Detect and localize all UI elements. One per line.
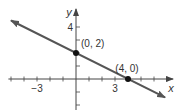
x-tick-label: 3	[112, 83, 118, 94]
data-point	[125, 76, 131, 82]
y-axis-label: y	[65, 6, 73, 18]
data-point	[73, 50, 79, 56]
x-axis-label: x	[167, 82, 174, 94]
x-tick-label: −3	[31, 83, 43, 94]
y-tick-label: 4	[67, 22, 73, 33]
point-label: (0, 2)	[81, 38, 104, 49]
line-chart: −334xy(0, 2)(4, 0)	[0, 0, 177, 110]
point-label: (4, 0)	[115, 63, 138, 74]
